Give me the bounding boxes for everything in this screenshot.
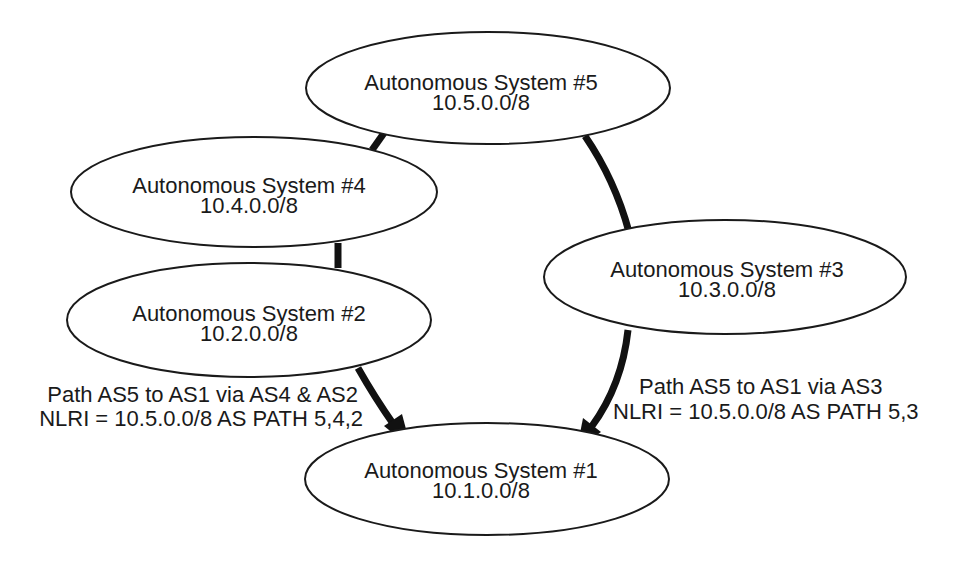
node-as3: Autonomous System #3 10.3.0.0/8: [544, 220, 906, 334]
annotation-right-line1: Path AS5 to AS1 via AS3: [639, 374, 882, 399]
node-as3-prefix: 10.3.0.0/8: [678, 277, 776, 302]
node-as1-prefix: 10.1.0.0/8: [432, 478, 530, 503]
bgp-as-path-diagram: Autonomous System #5 10.5.0.0/8 Autonomo…: [0, 0, 957, 564]
node-as1: Autonomous System #1 10.1.0.0/8: [305, 423, 669, 535]
annotation-right: Path AS5 to AS1 via AS3 NLRI = 10.5.0.0/…: [613, 374, 919, 424]
edge-as2-as1-arrow: [358, 368, 394, 425]
node-as5: Autonomous System #5 10.5.0.0/8: [306, 32, 670, 144]
annotation-left: Path AS5 to AS1 via AS4 & AS2 NLRI = 10.…: [39, 382, 363, 431]
node-as5-prefix: 10.5.0.0/8: [432, 90, 530, 115]
annotation-right-line2: NLRI = 10.5.0.0/8 AS PATH 5,3: [613, 399, 919, 424]
annotation-left-line1: Path AS5 to AS1 via AS4 & AS2: [47, 382, 358, 407]
node-as4-prefix: 10.4.0.0/8: [200, 193, 298, 218]
edge-as5-as4: [372, 133, 384, 150]
node-as2: Autonomous System #2 10.2.0.0/8: [67, 263, 431, 377]
annotation-left-line2: NLRI = 10.5.0.0/8 AS PATH 5,4,2: [39, 406, 363, 431]
node-as2-prefix: 10.2.0.0/8: [200, 321, 298, 346]
edge-as5-as3: [585, 136, 629, 232]
node-as4: Autonomous System #4 10.4.0.0/8: [71, 137, 437, 247]
